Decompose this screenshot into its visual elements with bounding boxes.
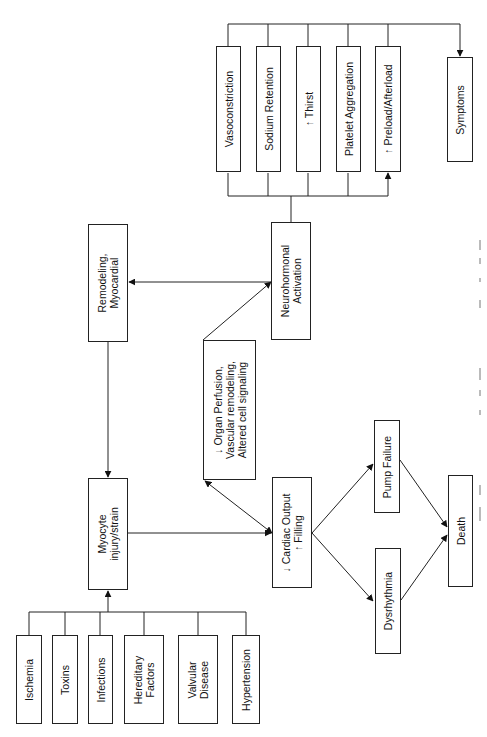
neurohormonal-label-2: Activation xyxy=(291,245,303,317)
effect-thirst-label: ↑ Thirst xyxy=(303,92,315,126)
neurohormonal-box: Neurohormonal Activation xyxy=(271,222,311,340)
effect-preload-box: ↑ Preload/Afterload xyxy=(375,46,401,172)
effect-sodium-label: Sodium Retention xyxy=(263,67,275,150)
organ-to-neuro-arrow xyxy=(203,282,271,340)
cardiac-output-label-2: ↑ Filling xyxy=(292,493,304,572)
cause-infections-label: Infections xyxy=(95,657,107,702)
remodeling-box: Remodeling, Myocardial xyxy=(88,224,128,342)
cause-hereditary-label-2: Factors xyxy=(144,655,156,703)
cardiac-output-box: ↓ Cardiac Output ↑ Filling xyxy=(272,477,312,588)
myocyte-injury-box: Myocyte injury/strain xyxy=(88,478,128,590)
cause-valvular-label-1: Valvular xyxy=(186,661,198,699)
cardiac-to-dysrhythmia-arrow xyxy=(312,533,373,601)
cause-valvular-box: Valvular Disease xyxy=(178,635,218,724)
cause-ischemia-label: Ischemia xyxy=(23,658,35,700)
cause-infections-box: Infections xyxy=(88,635,113,724)
death-label: Death xyxy=(455,517,467,545)
dysrhythmia-to-death-arrow xyxy=(401,535,447,600)
cause-hereditary-box: Hereditary Factors xyxy=(124,635,164,724)
organ-perfusion-label-2: Vascular remodeling, xyxy=(224,361,236,459)
effect-platelet-label: Platelet Aggregation xyxy=(343,62,355,156)
remodeling-label-1: Remodeling, xyxy=(96,254,108,313)
dysrhythmia-label: Dysrhythmia xyxy=(382,572,394,630)
pump-failure-label: Pump Failure xyxy=(381,435,393,497)
effect-thirst-box: ↑ Thirst xyxy=(296,46,321,172)
myocyte-label-1: Myocyte xyxy=(96,507,108,561)
cause-hypertension-label: Hypertension xyxy=(240,649,252,711)
effect-vasoconstriction-label: Vasoconstriction xyxy=(223,71,235,147)
cause-hereditary-label-1: Hereditary xyxy=(132,655,144,703)
faint-caption-strip xyxy=(478,240,482,670)
neurohormonal-label-1: Neurohormonal xyxy=(279,245,291,317)
cause-toxins-box: Toxins xyxy=(52,635,78,724)
causes-bus-line xyxy=(29,612,246,635)
pump-failure-box: Pump Failure xyxy=(374,420,400,513)
pump-to-death-arrow xyxy=(400,460,447,527)
cause-toxins-label: Toxins xyxy=(59,665,71,695)
effect-vasoconstriction-box: Vasoconstriction xyxy=(216,46,241,172)
organ-perfusion-box: ↓ Organ Perfusion, Vascular remodeling, … xyxy=(203,340,256,480)
cause-valvular-label-2: Disease xyxy=(198,661,210,699)
organ-perfusion-label-3: Altered cell signaling xyxy=(236,361,248,459)
death-box: Death xyxy=(448,475,473,587)
cause-ischemia-box: Ischemia xyxy=(16,635,42,724)
organ-perfusion-label-1: ↓ Organ Perfusion, xyxy=(212,361,224,459)
dysrhythmia-box: Dysrhythmia xyxy=(375,548,401,654)
symptoms-label: Symptoms xyxy=(454,85,466,135)
cardiac-output-label-1: ↓ Cardiac Output xyxy=(280,493,292,572)
cardiac-to-pump-arrow xyxy=(312,464,373,533)
symptoms-box: Symptoms xyxy=(447,57,473,162)
effect-sodium-box: Sodium Retention xyxy=(256,46,281,172)
remodeling-label-2: Myocardial xyxy=(108,254,120,313)
cause-hypertension-box: Hypertension xyxy=(232,635,260,724)
cardiac-organ-arrow xyxy=(205,481,272,533)
effect-platelet-box: Platelet Aggregation xyxy=(336,46,361,172)
effect-preload-label: ↑ Preload/Afterload xyxy=(382,64,394,153)
myocyte-label-2: injury/strain xyxy=(108,507,120,561)
